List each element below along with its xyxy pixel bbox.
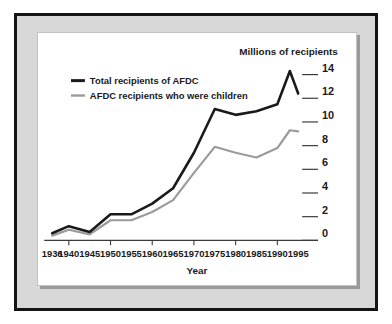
- chart-panel: 02468101214 1936194019451950195519601965…: [37, 32, 357, 286]
- y-tick-label: 2: [322, 204, 328, 216]
- chart-legend: Total recipients of AFDCAFDC recipients …: [71, 75, 248, 101]
- x-tick-label: 1975: [204, 248, 225, 259]
- x-axis-ticks: 1936194019451950195519601965197019751980…: [42, 240, 309, 259]
- y-tick-label: 8: [322, 133, 328, 145]
- x-tick-label: 1960: [142, 248, 163, 259]
- x-tick-label: 1970: [183, 248, 204, 259]
- y-tick-label: 0: [322, 227, 328, 239]
- y-tick-label: 10: [322, 109, 334, 121]
- x-tick-label: 1980: [225, 248, 246, 259]
- y-tick-label: 6: [322, 156, 328, 168]
- x-tick-label: 1950: [100, 248, 121, 259]
- chart-frame: 02468101214 1936194019451950195519601965…: [14, 13, 378, 311]
- legend-label: Total recipients of AFDC: [90, 75, 199, 86]
- x-axis-title: Year: [187, 265, 208, 276]
- x-tick-label: 1995: [288, 248, 309, 259]
- x-tick-label: 1945: [79, 248, 100, 259]
- legend-label: AFDC recipients who were children: [90, 90, 248, 101]
- x-tick-label: 1965: [163, 248, 184, 259]
- x-tick-label: 1985: [246, 248, 267, 259]
- afdc-recipients-line-chart: 02468101214 1936194019451950195519601965…: [38, 33, 356, 285]
- y-axis-title: Millions of recipients: [239, 46, 338, 57]
- y-tick-label: 12: [322, 85, 334, 97]
- x-tick-label: 1955: [121, 248, 142, 259]
- x-tick-label: 1940: [58, 248, 79, 259]
- y-tick-label: 14: [322, 62, 334, 74]
- y-tick-label: 4: [322, 180, 328, 192]
- y-axis-ticks: 02468101214: [302, 62, 334, 241]
- x-tick-label: 1990: [267, 248, 288, 259]
